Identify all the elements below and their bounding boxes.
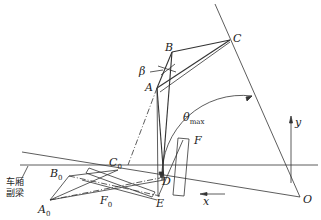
label-F: F xyxy=(194,135,202,146)
label-B0: B0 xyxy=(50,168,63,182)
label-x: x xyxy=(203,196,209,207)
label-A: A xyxy=(145,82,153,93)
label-C0: C0 xyxy=(109,157,122,171)
label-theta-max: θmax xyxy=(183,112,204,126)
annotation-line-1: 车厢 xyxy=(6,177,24,188)
label-O: O xyxy=(303,194,312,205)
dashdot-A xyxy=(128,88,157,165)
label-A0: A0 xyxy=(38,204,50,218)
annotation-frame-sub-beam: 车厢 副梁 xyxy=(6,177,24,199)
cylinder-raised xyxy=(173,138,189,196)
label-beta: β xyxy=(139,66,145,77)
beta-leader xyxy=(150,70,163,72)
arc-arrow-top xyxy=(246,96,252,101)
annotation-line-2: 副梁 xyxy=(6,188,24,199)
label-D: D xyxy=(162,176,171,187)
label-E: E xyxy=(156,198,164,209)
mechanism-diagram xyxy=(0,0,321,220)
beta-marker-2 xyxy=(161,64,175,75)
beta-marker-1 xyxy=(158,66,176,72)
label-y: y xyxy=(295,117,301,128)
label-B: B xyxy=(165,42,173,53)
label-F0: F0 xyxy=(100,195,112,209)
label-C: C xyxy=(233,33,241,44)
y-axis-arrow xyxy=(290,116,293,123)
rotation-line xyxy=(215,4,300,197)
